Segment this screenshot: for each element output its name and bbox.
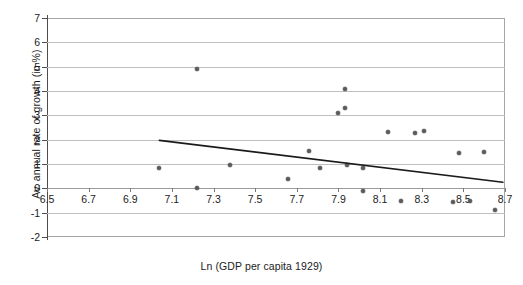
x-tick-label: 7.7: [290, 193, 305, 205]
gridline-y: [47, 140, 505, 141]
x-axis-title: Ln (GDP per capita 1929): [0, 260, 523, 272]
data-point: [422, 129, 426, 133]
y-tick-label: 1: [34, 158, 40, 170]
x-tick-label: 7.5: [248, 193, 263, 205]
data-point: [468, 199, 472, 203]
y-tick-label: 4: [34, 85, 40, 97]
x-tick-mark: [172, 188, 173, 192]
y-tick-mark: [42, 140, 47, 141]
y-tick-label: -1: [31, 207, 40, 219]
x-tick-label: 6.9: [123, 193, 138, 205]
y-tick-mark: [42, 18, 47, 19]
x-tick-label: 8.1: [373, 193, 388, 205]
y-tick-mark: [42, 164, 47, 165]
data-point: [399, 199, 403, 203]
x-tick-label: 8.7: [498, 193, 513, 205]
x-tick-label: 7.3: [206, 193, 221, 205]
y-tick-label: 6: [34, 36, 40, 48]
x-tick-mark: [47, 188, 48, 192]
data-point: [413, 131, 417, 135]
gridline-y: [47, 91, 505, 92]
x-tick-label: 8.3: [414, 193, 429, 205]
y-tick-label: 7: [34, 12, 40, 24]
x-tick-mark: [505, 188, 506, 192]
data-point: [457, 151, 461, 155]
data-point: [318, 166, 322, 170]
x-tick-label: 6.7: [81, 193, 96, 205]
y-tick-mark: [42, 67, 47, 68]
data-point: [286, 177, 290, 181]
data-point: [345, 163, 349, 167]
data-point: [361, 166, 365, 170]
data-point: [195, 67, 199, 71]
data-point: [307, 149, 311, 153]
y-tick-mark: [42, 237, 47, 238]
plot-area: 76543210-1-2 6.56.76.97.17.37.57.77.98.1…: [47, 18, 505, 237]
y-tick-label: 2: [34, 134, 40, 146]
x-tick-mark: [130, 188, 131, 192]
data-point: [493, 208, 497, 212]
data-point: [157, 166, 161, 170]
x-tick-mark: [214, 188, 215, 192]
x-tick-label: 7.9: [331, 193, 346, 205]
y-tick-label: -2: [31, 231, 40, 243]
y-tick-mark: [42, 213, 47, 214]
data-point: [482, 150, 486, 154]
data-point: [343, 106, 347, 110]
y-tick-label: 5: [34, 61, 40, 73]
x-tick-mark: [338, 188, 339, 192]
y-tick-mark: [42, 42, 47, 43]
x-tick-mark: [422, 188, 423, 192]
data-point: [228, 163, 232, 167]
x-tick-mark: [255, 188, 256, 192]
gridline-y: [47, 213, 505, 214]
y-tick-mark: [42, 115, 47, 116]
gridline-y: [47, 67, 505, 68]
y-tick-mark: [42, 91, 47, 92]
data-point: [386, 130, 390, 134]
x-tick-label: 6.5: [40, 193, 55, 205]
x-tick-mark: [89, 188, 90, 192]
data-point: [336, 111, 340, 115]
x-tick-mark: [463, 188, 464, 192]
gridline-y: [47, 164, 505, 165]
x-tick-mark: [380, 188, 381, 192]
y-tick-label: 3: [34, 109, 40, 121]
x-axis-ticks: 6.56.76.97.17.37.57.77.98.18.38.58.7: [47, 188, 505, 210]
scatter-chart: Av. annual rate of growth (in %) 7654321…: [0, 0, 523, 285]
x-tick-label: 7.1: [165, 193, 180, 205]
x-tick-mark: [297, 188, 298, 192]
gridline-y: [47, 42, 505, 43]
gridline-y: [47, 115, 505, 116]
data-point: [451, 200, 455, 204]
data-point: [343, 87, 347, 91]
